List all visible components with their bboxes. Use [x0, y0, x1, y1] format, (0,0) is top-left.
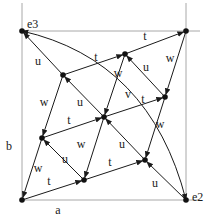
edge-label: u: [152, 176, 158, 190]
node-C: [162, 94, 168, 100]
edge-label: w: [166, 51, 175, 65]
node-label-e3: e3: [27, 17, 38, 31]
frame-label-a: a: [55, 203, 61, 217]
node-F: [142, 157, 148, 163]
frame-lines: [22, 3, 200, 200]
edge-label: w: [114, 66, 123, 80]
nodes: [19, 28, 189, 203]
edge-label: t: [108, 155, 112, 169]
node-B: [122, 51, 128, 57]
edge-label: t: [67, 113, 71, 127]
edge-label: u: [35, 54, 41, 68]
node-E: [39, 135, 45, 141]
node-A: [60, 72, 66, 78]
edge-label: t: [47, 174, 51, 188]
node-D: [101, 114, 107, 120]
edge-t-B-TR: [125, 32, 184, 54]
edge-label: u: [77, 95, 83, 109]
edge-u-A-e3: [24, 33, 63, 75]
edge-u-F-D: [106, 119, 145, 160]
edge-label: w: [77, 137, 86, 151]
edge-label: w: [156, 117, 165, 131]
edge-label: w: [40, 95, 49, 109]
edge-t-G-F: [84, 161, 143, 180]
edge-t-E-D: [42, 118, 102, 138]
graph-diagram: ttttttwwwwwwuuuuuuve3e2ab: [0, 0, 219, 220]
edge-w-D-G: [85, 117, 104, 178]
edge-label: u: [62, 152, 68, 166]
frame-label-b: b: [6, 139, 12, 153]
node-G: [81, 177, 87, 183]
edge-label: w: [34, 161, 43, 175]
node-BL: [19, 197, 25, 203]
node-TR: [183, 28, 189, 34]
edge-t-D-C: [104, 98, 163, 117]
node-e2: [183, 197, 189, 203]
node-e3: [19, 28, 25, 34]
edge-u-D-A: [65, 77, 104, 117]
edge-w-B-D: [105, 54, 125, 115]
arc-label: v: [125, 87, 131, 101]
edge-t-BL-G: [22, 181, 82, 200]
node-label-e2: e2: [192, 190, 203, 204]
edge-label: u: [119, 137, 125, 151]
edge-label: u: [143, 60, 149, 74]
edge-label: t: [94, 50, 98, 64]
